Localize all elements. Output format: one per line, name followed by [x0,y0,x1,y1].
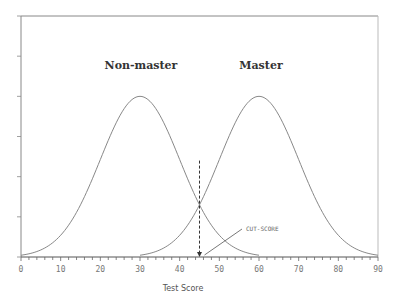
cut-score-marker [197,161,242,257]
x-axis-tick-labels: 0102030405060708090 [19,265,383,274]
x-tick-label: 60 [254,265,264,274]
x-tick-label: 20 [96,265,106,274]
x-tick-label: 0 [19,265,24,274]
y-axis-ticks [17,16,21,257]
x-tick-label: 70 [294,265,304,274]
x-axis-title: Test Score [162,284,204,293]
normal-distribution-chart: Non-master Master CUT-SCORE Test Score 0… [0,0,394,302]
cutscore-label: CUT-SCORE [246,225,279,232]
x-axis-ticks [21,257,378,261]
x-tick-label: 30 [135,265,145,274]
nonmaster-label: Non-master [105,59,178,72]
x-tick-label: 10 [56,265,66,274]
x-tick-label: 80 [334,265,344,274]
arrowhead-icon [197,252,202,257]
x-tick-label: 50 [215,265,225,274]
annotation-pointer [205,229,243,255]
x-tick-label: 40 [175,265,185,274]
x-tick-label: 90 [373,265,383,274]
curve-non-master [21,96,259,255]
master-label: Master [239,59,283,72]
